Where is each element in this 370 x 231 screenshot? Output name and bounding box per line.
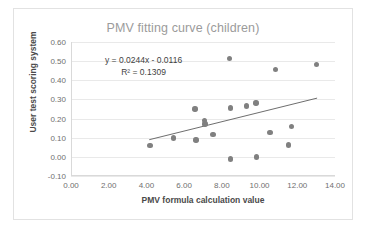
y-axis-tick-label: 0.20 xyxy=(50,114,66,123)
y-axis-title: User test scoring system xyxy=(28,15,38,149)
x-axis-tick-label: 6.00 xyxy=(176,181,192,190)
x-axis-tick-label: 2.00 xyxy=(101,181,117,190)
data-point xyxy=(210,132,215,137)
x-axis-tick-label: 10.00 xyxy=(250,181,270,190)
y-axis-tick-label: 0.60 xyxy=(50,38,66,47)
regression-equation: y = 0.0244x - 0.0116 xyxy=(105,54,182,66)
data-point xyxy=(286,142,291,147)
y-axis-tick-label: -0.10 xyxy=(48,172,66,181)
data-point xyxy=(228,105,233,110)
x-axis-tick-label: 0.00 xyxy=(63,181,79,190)
gridline xyxy=(71,176,335,177)
x-axis-title: PMV formula calculation value xyxy=(71,195,335,205)
y-axis-tick-label: 0.00 xyxy=(50,152,66,161)
data-point xyxy=(193,137,198,142)
chart-title: PMV fitting curve (children) xyxy=(14,21,352,35)
data-point xyxy=(192,106,197,111)
y-axis-tick-label: 0.50 xyxy=(50,57,66,66)
plot-area: -0.100.000.100.200.300.400.500.60 0.002.… xyxy=(71,42,335,176)
data-point xyxy=(254,154,259,159)
x-axis-tick-label: 12.00 xyxy=(287,181,307,190)
data-point xyxy=(228,156,233,161)
x-axis-tick-label: 14.00 xyxy=(325,181,345,190)
chart-container: PMV fitting curve (children) User test s… xyxy=(13,8,353,220)
y-axis-tick-label: 0.40 xyxy=(50,76,66,85)
x-axis-tick-label: 4.00 xyxy=(139,181,155,190)
r-squared-value: R² = 0.1309 xyxy=(105,66,182,78)
data-point xyxy=(171,135,176,140)
y-axis-tick-label: 0.30 xyxy=(50,95,66,104)
y-axis-tick-label: 0.10 xyxy=(50,133,66,142)
data-point xyxy=(202,121,207,126)
x-axis-tick-label: 8.00 xyxy=(214,181,230,190)
regression-annotation: y = 0.0244x - 0.0116 R² = 0.1309 xyxy=(105,54,182,79)
data-point xyxy=(253,100,258,105)
data-point xyxy=(147,143,152,148)
